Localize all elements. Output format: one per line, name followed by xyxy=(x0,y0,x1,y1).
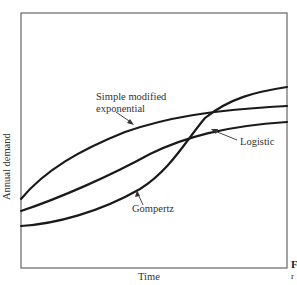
label-logistic: Logistic xyxy=(240,136,274,148)
caption-fragment-1: F xyxy=(291,258,297,270)
chart-figure: Simple modified exponential Logistic Gom… xyxy=(0,0,297,285)
label-simple-modified-exponential-line2: exponential xyxy=(96,103,145,115)
x-axis-label: Time xyxy=(138,271,160,283)
caption-fragment-2: r xyxy=(291,271,294,281)
label-simple-modified-exponential-line1: Simple modified xyxy=(96,91,166,103)
label-gompertz: Gompertz xyxy=(132,203,174,215)
y-axis-label: Annual demand xyxy=(1,133,12,200)
